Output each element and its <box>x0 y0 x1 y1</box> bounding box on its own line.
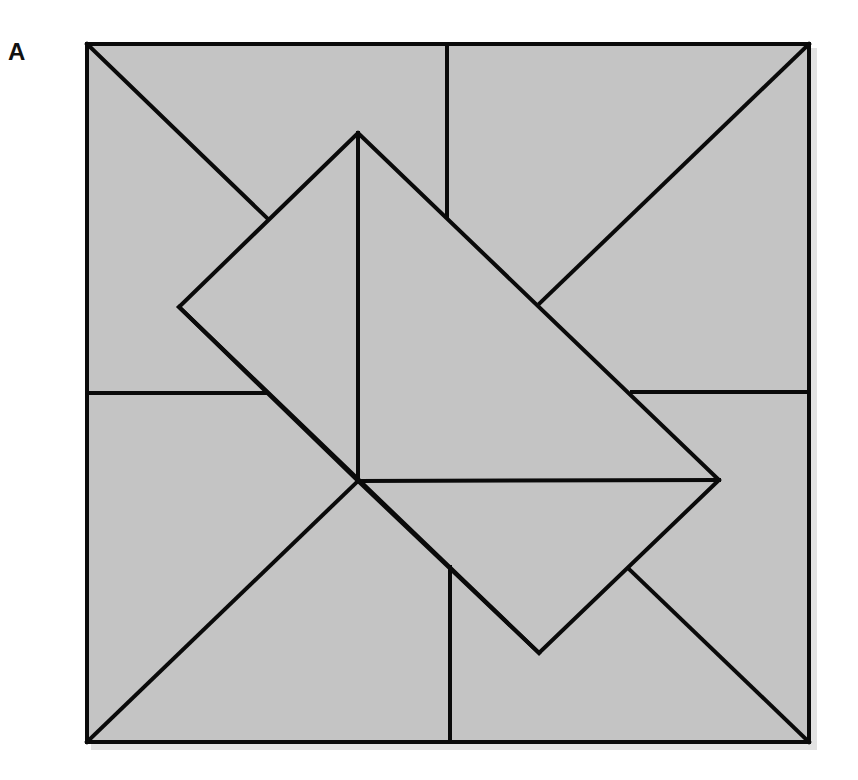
inner-horizontal-line <box>358 480 719 481</box>
tangram-figure <box>0 0 858 780</box>
